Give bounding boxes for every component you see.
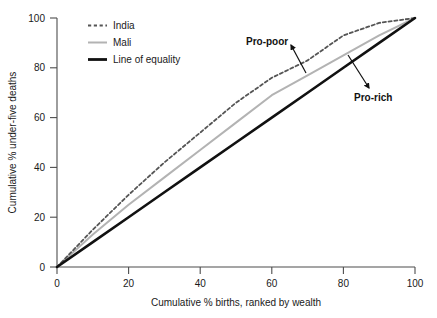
x-tick-label-20: 20 <box>123 278 135 289</box>
chart-legend: India Mali Line of equality <box>88 20 180 65</box>
x-axis-ticks <box>57 267 415 274</box>
x-axis-title: Cumulative % births, ranked by wealth <box>151 297 321 308</box>
chart-canvas: 0 20 40 60 80 100 0 20 40 60 80 100 Cumu… <box>0 0 437 318</box>
x-tick-label-0: 0 <box>54 278 60 289</box>
y-tick-label-20: 20 <box>34 212 46 223</box>
legend-item-mali: Mali <box>88 37 131 48</box>
y-tick-label-40: 40 <box>34 162 46 173</box>
y-axis-title: Cumulative % under-five deaths <box>7 72 18 214</box>
y-axis-tick-labels: 0 20 40 60 80 100 <box>28 13 45 273</box>
y-axis-ticks <box>50 18 57 267</box>
x-tick-label-40: 40 <box>195 278 207 289</box>
y-tick-label-60: 60 <box>34 112 46 123</box>
x-tick-label-100: 100 <box>407 278 424 289</box>
x-tick-label-80: 80 <box>338 278 350 289</box>
pro-rich-label: Pro-rich <box>354 92 392 103</box>
legend-label-equality: Line of equality <box>113 54 180 65</box>
x-tick-label-60: 60 <box>266 278 278 289</box>
legend-item-line-of-equality: Line of equality <box>88 54 180 65</box>
y-tick-label-0: 0 <box>39 262 45 273</box>
x-axis-tick-labels: 0 20 40 60 80 100 <box>54 278 424 289</box>
series-group <box>57 18 415 267</box>
legend-label-india: India <box>113 20 135 31</box>
y-tick-label-100: 100 <box>28 13 45 24</box>
annotation-pro-rich: Pro-rich <box>348 55 392 103</box>
series-line-equality <box>57 18 415 267</box>
annotation-pro-poor: Pro-poor <box>246 36 306 73</box>
y-tick-label-80: 80 <box>34 62 46 73</box>
pro-poor-arrow <box>291 45 306 73</box>
legend-label-mali: Mali <box>113 37 131 48</box>
pro-rich-arrow <box>348 55 369 88</box>
pro-poor-label: Pro-poor <box>246 36 288 47</box>
lorenz-concentration-chart: 0 20 40 60 80 100 0 20 40 60 80 100 Cumu… <box>0 0 437 318</box>
legend-item-india: India <box>88 20 135 31</box>
